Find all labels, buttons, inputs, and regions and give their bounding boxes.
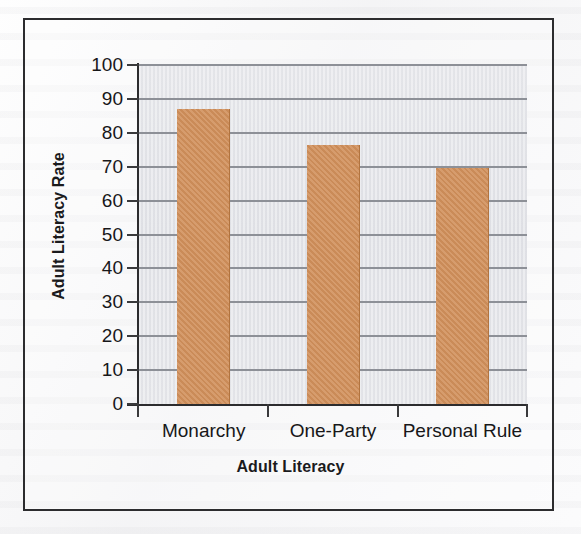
gridline: [139, 98, 527, 100]
y-axis-tick-label: 60: [79, 191, 123, 210]
y-axis-tick-label: 20: [79, 326, 123, 345]
x-axis-tick: [267, 404, 269, 417]
x-axis-tick: [397, 404, 399, 417]
y-axis-tick: [127, 132, 139, 134]
scanned-page: Adult Literacy Rate 10090807060504030201…: [0, 0, 581, 534]
y-axis-tick: [127, 200, 139, 202]
y-axis-tick-label: 50: [79, 225, 123, 244]
y-axis-tick: [127, 301, 139, 303]
y-axis-tick-label: 10: [79, 360, 123, 379]
y-axis-tick-label: 0: [79, 394, 123, 413]
x-axis-label-personal-rule: Personal Rule: [398, 420, 527, 442]
y-axis-tick: [127, 335, 139, 337]
y-axis-tick: [127, 234, 139, 236]
y-axis-tick: [127, 369, 139, 371]
y-axis-tick-label: 90: [79, 89, 123, 108]
gridline: [139, 64, 527, 66]
y-axis-title: Adult Literacy Rate: [50, 131, 68, 321]
y-axis-tick-label: 80: [79, 123, 123, 142]
y-axis-tick: [127, 64, 139, 66]
x-axis-label-monarchy: Monarchy: [139, 420, 268, 442]
y-axis-tick-labels: 1009080706050403020100: [73, 20, 123, 513]
bar-chart: Adult Literacy Rate 10090807060504030201…: [25, 20, 556, 513]
bar-personal-rule: [436, 168, 489, 404]
y-axis-tick-label: 70: [79, 157, 123, 176]
x-axis-origin-tick: [137, 404, 139, 417]
y-axis-tick: [127, 166, 139, 168]
y-axis-tick: [127, 98, 139, 100]
plot-area: [139, 65, 527, 404]
x-axis-tick: [526, 404, 528, 417]
y-axis-tick-label: 30: [79, 292, 123, 311]
bar-one-party: [307, 145, 360, 404]
bar-monarchy: [177, 109, 230, 404]
y-axis-tick: [127, 267, 139, 269]
x-axis-line: [127, 404, 527, 406]
x-axis-label-one-party: One-Party: [268, 420, 397, 442]
x-axis-title: Adult Literacy: [25, 458, 556, 476]
y-axis-tick-label: 100: [79, 55, 123, 74]
y-axis-tick-label: 40: [79, 258, 123, 277]
figure-frame: Adult Literacy Rate 10090807060504030201…: [23, 18, 554, 511]
